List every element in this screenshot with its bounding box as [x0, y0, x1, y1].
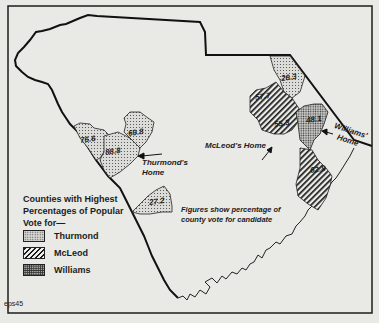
- legend-item-mcleod: McLeod: [23, 247, 88, 259]
- legend-title: Counties with Highest Percentages of Pop…: [23, 193, 124, 229]
- thurmond-home-label: Thurmond's Home: [142, 158, 188, 178]
- map-credit: eps45: [4, 300, 23, 307]
- mcleod-home-label: McLeod's Home: [205, 141, 266, 151]
- legend-item-williams: Williams: [23, 264, 90, 276]
- figures-note: Figures show percentage of county vote f…: [181, 205, 281, 225]
- thurmond-swatch-icon: [23, 230, 45, 242]
- county-48-1: [296, 104, 328, 150]
- mcleod-swatch-icon: [23, 247, 45, 259]
- legend-item-thurmond: Thurmond: [23, 230, 99, 242]
- county-62-8: [296, 148, 332, 210]
- williams-swatch-icon: [23, 264, 45, 276]
